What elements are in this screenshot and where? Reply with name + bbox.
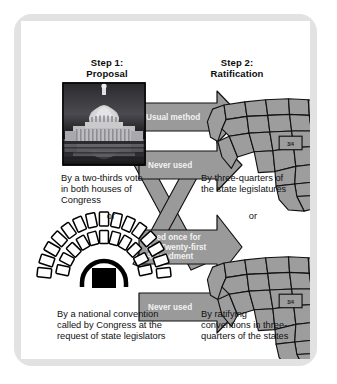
proposal-or-label: or [61,211,161,221]
ratification-conventions-caption-line2: conventions in three- [201,320,309,331]
diagram-frame: Step 1: Proposal Step 2: Ratification [14,14,317,366]
ratification-legislatures-caption: By three-quarters of the state legislatu… [201,173,310,195]
ratification-conventions-caption-line3: quarters of the states [201,331,309,342]
proposal-congress-caption-line3: Congress [61,195,165,206]
proposal-convention-caption-line3: request of state legislators [57,331,181,342]
ratification-legislatures-caption-line1: By three-quarters of [201,173,310,184]
proposal-congress-caption-line2: in both houses of [61,184,165,195]
ratification-legislatures-caption-line2: the state legislatures [201,184,310,195]
ratification-conventions-caption: By ratifying conventions in three- quart… [201,309,309,343]
proposal-congress-caption-line1: By a two-thirds vote [61,173,165,184]
ratification-or-label: or [201,211,305,221]
arrow-usual-method-label: Usual method [146,113,200,122]
arrow-never-used-top-label: Never used [148,161,192,170]
diagram-canvas: Step 1: Proposal Step 2: Ratification [21,21,310,359]
proposal-congress-caption: By a two-thirds vote in both houses of C… [61,173,165,207]
capitol-building-photo [63,83,145,165]
map1-fraction-label: 3/4 [287,142,294,147]
ratification-conventions-caption-line1: By ratifying [201,309,309,320]
proposal-convention-caption: By a national convention called by Congr… [57,309,181,343]
map2-fraction-label: 3/4 [287,300,294,305]
convention-seating-icon [37,212,171,288]
proposal-convention-caption-line1: By a national convention [57,309,181,320]
us-map-ratifying-conventions: 3/4 [207,256,310,359]
proposal-convention-caption-line2: called by Congress at the [57,320,181,331]
us-map-state-legislatures: 3/4 [207,98,310,219]
